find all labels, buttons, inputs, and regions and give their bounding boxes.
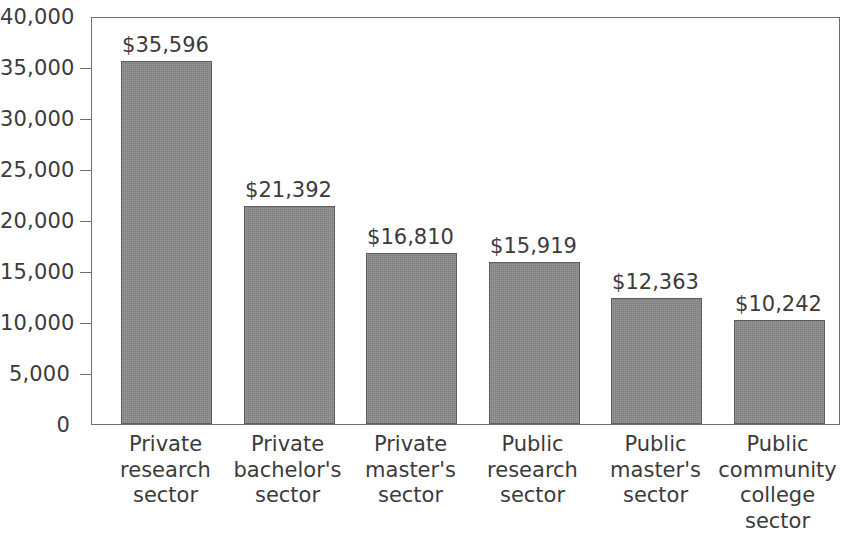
y-axis-tick-label: 15,000	[0, 262, 70, 283]
y-axis-tick-label: 30,000	[0, 109, 70, 130]
bar	[244, 206, 335, 424]
x-axis-category-label: Public master's sector	[596, 432, 715, 509]
y-axis-tick-label: 5,000	[0, 364, 70, 385]
bar	[121, 61, 212, 424]
bar	[734, 320, 825, 425]
bar-value-label: $15,919	[488, 236, 579, 257]
y-axis-tick-label: 10,000	[0, 313, 70, 334]
y-axis-tick-label: 25,000	[0, 160, 70, 181]
plot-area	[91, 17, 840, 425]
bar-value-label: $21,392	[243, 180, 334, 201]
bar-chart: 40,000 35,000 30,000 25,000 20,000 15,00…	[0, 0, 852, 545]
bar-value-label: $12,363	[610, 272, 701, 293]
bar-value-label: $16,810	[365, 227, 456, 248]
x-axis-category-label: Public research sector	[473, 432, 592, 509]
x-axis-category-label: Private master's sector	[351, 432, 470, 509]
x-axis-category-label: Public community college sector	[718, 432, 837, 534]
y-axis-tick-label: 0	[0, 415, 70, 436]
bar	[489, 262, 580, 424]
bar-value-label: $35,596	[120, 35, 211, 56]
x-axis-category-label: Private bachelor's sector	[228, 432, 347, 509]
bar	[366, 253, 457, 425]
y-axis-tick-label: 20,000	[0, 211, 70, 232]
bar	[611, 298, 702, 424]
y-axis-tick-label: 40,000	[0, 7, 70, 28]
bar-value-label: $10,242	[733, 294, 824, 315]
y-axis-tick-label: 35,000	[0, 58, 70, 79]
x-axis-category-label: Private research sector	[106, 432, 225, 509]
